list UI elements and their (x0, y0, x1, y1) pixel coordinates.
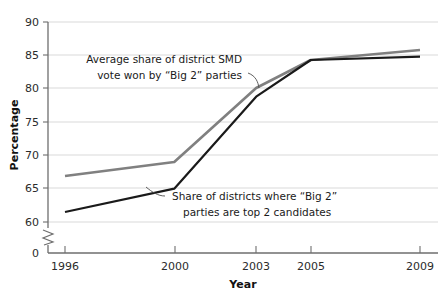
ytick-label-0: 0 (32, 247, 39, 260)
annotation-black-line2: parties are top 2 candidates (183, 206, 331, 218)
x-axis-title: Year (228, 278, 257, 291)
chart-canvas: 90 85 80 75 70 65 60 0 Percentage 1996 2… (0, 0, 444, 294)
x-tick-labels: 1996 2000 2003 2005 2009 (51, 260, 434, 273)
ytick-label-85: 85 (25, 49, 39, 62)
xtick-label-2009: 2009 (406, 260, 434, 273)
annotation-gray-line2: vote won by “Big 2” parties (97, 69, 242, 81)
annotation-black-line1: Share of districts where “Big 2” (172, 190, 337, 202)
axis-break-icon (43, 230, 53, 245)
xtick-label-2005: 2005 (297, 260, 325, 273)
leader-line-gray (248, 73, 259, 88)
xtick-label-1996: 1996 (51, 260, 79, 273)
y-axis (43, 22, 53, 253)
ytick-label-65: 65 (25, 182, 39, 195)
y-tick-labels: 90 85 80 75 70 65 60 0 (25, 16, 39, 260)
ytick-label-75: 75 (25, 116, 39, 129)
annotation-gray: Average share of district SMD vote won b… (86, 53, 242, 81)
line-chart: 90 85 80 75 70 65 60 0 Percentage 1996 2… (0, 0, 444, 294)
xtick-label-2003: 2003 (242, 260, 270, 273)
xtick-label-2000: 2000 (161, 260, 189, 273)
annotation-leaders (146, 73, 259, 196)
ytick-label-60: 60 (25, 216, 39, 229)
annotation-black: Share of districts where “Big 2” parties… (172, 190, 337, 218)
x-axis (48, 246, 438, 253)
ytick-label-70: 70 (25, 149, 39, 162)
y-axis-title: Percentage (8, 100, 21, 171)
ytick-label-80: 80 (25, 82, 39, 95)
annotation-gray-line1: Average share of district SMD (86, 53, 242, 65)
ytick-label-90: 90 (25, 16, 39, 29)
